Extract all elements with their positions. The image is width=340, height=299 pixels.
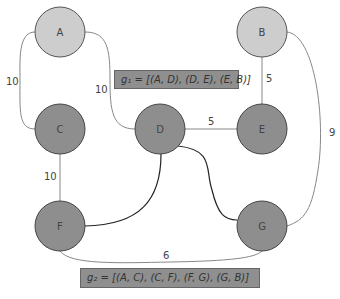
weight-b-g: 9: [329, 127, 335, 138]
weight-b-e: 5: [266, 73, 272, 84]
node-g: G: [237, 201, 287, 251]
node-f-label: F: [57, 221, 63, 232]
node-e: E: [237, 104, 287, 154]
node-d-label: D: [156, 124, 164, 135]
edge-a-c: [20, 32, 35, 129]
edge-f-g: [60, 251, 262, 263]
weight-d-e: 5: [208, 116, 214, 127]
node-c-label: C: [57, 124, 64, 135]
path-g1-label: g₁ = [(A, D), (D, E), (E, B)]: [114, 70, 239, 89]
node-b-label: B: [259, 27, 266, 38]
weight-a-c: 10: [6, 76, 19, 87]
graph-diagram: 10 10 5 9 10 5 6 A B C D E F G: [0, 0, 340, 299]
weight-c-f: 10: [44, 171, 57, 182]
node-d: D: [135, 104, 185, 154]
node-a: A: [35, 7, 85, 57]
edge-d-g: [178, 146, 237, 220]
node-g-label: G: [258, 221, 266, 232]
node-f: F: [35, 201, 85, 251]
node-c: C: [35, 104, 85, 154]
weight-f-g: 6: [163, 250, 169, 261]
node-e-label: E: [259, 124, 265, 135]
path-g2-label: g₂ = [(A, C), (C, F), (F, G), (G, B)]: [80, 268, 260, 288]
edge-b-g: [287, 32, 321, 226]
node-a-label: A: [57, 27, 64, 38]
edge-d-f: [85, 154, 161, 226]
weight-a-d: 10: [95, 84, 108, 95]
node-b: B: [237, 7, 287, 57]
